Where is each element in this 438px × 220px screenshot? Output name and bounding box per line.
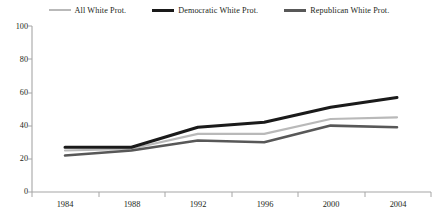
legend-item-republican-white-prot: Republican White Prot. — [284, 6, 389, 15]
x-tick-label: 2004 — [373, 200, 423, 210]
legend-item-democratic-white-prot: Democratic White Prot. — [152, 6, 258, 15]
line-swatch-black-icon — [152, 9, 174, 12]
x-tick-label: 2000 — [306, 200, 356, 210]
line-swatch-light-gray-icon — [49, 9, 71, 11]
legend-label: Republican White Prot. — [310, 6, 389, 15]
legend-label: All White Prot. — [75, 6, 127, 15]
x-axis-ticks — [32, 192, 431, 197]
legend-label: Democratic White Prot. — [178, 6, 258, 15]
plot-area — [0, 18, 438, 198]
x-tick-label: 1992 — [173, 200, 223, 210]
x-tick-label: 1988 — [107, 200, 157, 210]
legend-item-all-white-prot: All White Prot. — [49, 6, 127, 15]
chart-legend: All White Prot. Democratic White Prot. R… — [0, 2, 438, 18]
x-axis-labels: 1984 1988 1992 1996 2000 2004 — [0, 198, 438, 216]
line-chart: All White Prot. Democratic White Prot. R… — [0, 0, 438, 220]
y-axis-ticks — [28, 26, 32, 192]
series-line-republican-white-prot — [65, 126, 397, 156]
series-line-all-white-prot — [65, 117, 397, 150]
x-tick-label: 1996 — [240, 200, 290, 210]
line-swatch-dark-gray-icon — [284, 9, 306, 12]
x-tick-label: 1984 — [40, 200, 90, 210]
plot-svg — [0, 18, 438, 198]
series-line-democratic-white-prot — [65, 97, 397, 147]
